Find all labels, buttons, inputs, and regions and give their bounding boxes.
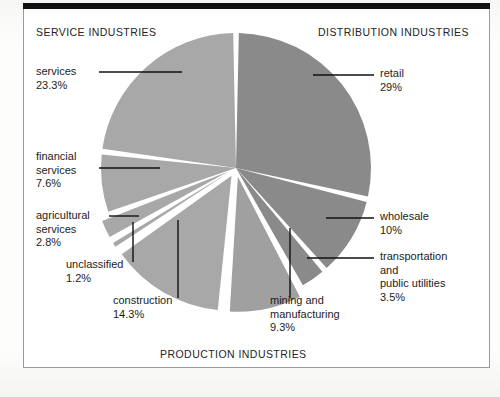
slice-label-agricultural-services-name-1: agricultural <box>36 209 90 221</box>
slice-label-agricultural-services: agricultural services 2.8% <box>36 209 90 250</box>
slice-label-wholesale: wholesale 10% <box>380 210 429 237</box>
section-heading-service-industries: SERVICE INDUSTRIES <box>36 26 157 38</box>
slice-label-construction-name: construction <box>113 294 172 306</box>
section-heading-production-industries: PRODUCTION INDUSTRIES <box>160 348 307 360</box>
slice-label-construction-pct: 14.3% <box>113 308 172 322</box>
section-heading-distribution-industries: DISTRIBUTION INDUSTRIES <box>318 26 469 38</box>
slice-label-financial-services-name-1: financial <box>36 150 76 162</box>
slice-label-financial-services-name-2: services <box>36 164 76 178</box>
slice-label-services-name: services <box>36 65 76 77</box>
slice-label-financial-services-pct: 7.6% <box>36 177 76 191</box>
slice-label-unclassified-name: unclassified <box>66 258 123 270</box>
slice-label-mining-name-1: mining and <box>270 294 324 306</box>
slice-label-unclassified-pct: 1.2% <box>66 272 123 286</box>
slice-label-agricultural-services-pct: 2.8% <box>36 236 90 250</box>
figure-root: SERVICE INDUSTRIES DISTRIBUTION INDUSTRI… <box>0 0 500 397</box>
slice-label-transportation-public-utilities: transportation and public utilities 3.5% <box>380 250 447 304</box>
slice-label-transport-name-3: public utilities <box>380 277 447 291</box>
slice-label-transport-pct: 3.5% <box>380 291 447 305</box>
slice-label-mining-and-manufacturing: mining and manufacturing 9.3% <box>270 294 340 335</box>
slice-label-services-pct: 23.3% <box>36 79 76 93</box>
slice-label-retail-pct: 29% <box>380 81 404 95</box>
slice-label-unclassified: unclassified 1.2% <box>66 258 123 285</box>
slice-label-transport-name-2: and <box>380 264 447 278</box>
slice-label-agricultural-services-name-2: services <box>36 223 90 237</box>
pie-chart <box>0 0 500 397</box>
slice-label-wholesale-pct: 10% <box>380 224 429 238</box>
slice-label-retail: retail 29% <box>380 67 404 94</box>
slice-label-construction: construction 14.3% <box>113 294 172 321</box>
slice-label-wholesale-name: wholesale <box>380 210 429 222</box>
pie-svg <box>0 0 500 397</box>
slice-label-mining-name-2: manufacturing <box>270 308 340 322</box>
slice-label-financial-services: financial services 7.6% <box>36 150 76 191</box>
pie-slice-retail[interactable] <box>236 33 371 196</box>
slice-label-mining-pct: 9.3% <box>270 321 340 335</box>
slice-label-transport-name-1: transportation <box>380 250 447 262</box>
slice-label-retail-name: retail <box>380 67 404 79</box>
pie-slice-services[interactable] <box>102 33 236 168</box>
slice-label-services: services 23.3% <box>36 65 76 92</box>
